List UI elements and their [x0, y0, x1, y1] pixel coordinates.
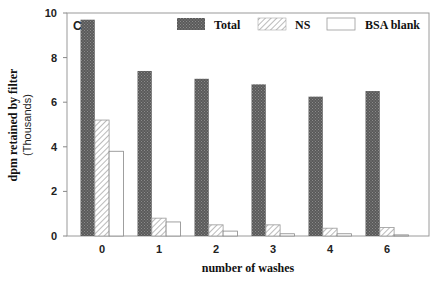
legend-swatch-bsa-blank: [327, 18, 355, 30]
x-tick-label: 4: [327, 243, 334, 255]
x-tick-label: 2: [213, 243, 219, 255]
x-tick-label: 0: [99, 243, 105, 255]
legend-label-ns: NS: [295, 18, 311, 32]
y-tick-label: 0: [51, 230, 57, 242]
y-tick-label: 6: [51, 96, 57, 108]
bar-total: [195, 79, 209, 236]
bars: [81, 20, 409, 236]
panel-label: C: [73, 19, 82, 33]
y-axis-title: dpm retained by filter: [6, 68, 20, 181]
bar-ns: [209, 225, 223, 236]
legend-swatch-total: [177, 18, 205, 30]
bar-total: [138, 71, 152, 236]
legend-label-total: Total: [214, 18, 241, 32]
x-axis-title: number of washes: [202, 261, 295, 275]
y-tick-label: 8: [51, 52, 57, 64]
legend: Total NS BSA blank: [177, 18, 420, 32]
bar-total: [81, 20, 95, 236]
bar-total: [252, 84, 266, 236]
x-tick-label: 6: [384, 243, 390, 255]
bar-bsa-blank: [394, 235, 408, 236]
x-axis: 012346: [99, 243, 390, 255]
bar-ns: [95, 120, 109, 236]
y-axis-subtitle: (Thousands): [21, 94, 33, 156]
x-tick-label: 1: [156, 243, 162, 255]
bar-ns: [152, 218, 166, 236]
x-tick-label: 3: [270, 243, 276, 255]
bar-bsa-blank: [223, 231, 237, 236]
bar-bsa-blank: [280, 234, 294, 236]
y-tick-label: 10: [45, 7, 57, 19]
bar-total: [309, 97, 323, 236]
y-axis: 0246810: [45, 7, 67, 242]
bar-ns: [266, 225, 280, 236]
bar-bsa-blank: [337, 234, 351, 236]
bar-bsa-blank: [109, 151, 123, 236]
bar-ns: [323, 228, 337, 236]
y-tick-label: 4: [51, 141, 58, 153]
legend-swatch-ns: [258, 18, 286, 30]
y-tick-label: 2: [51, 185, 57, 197]
bar-chart: 0246810 012346 C Total NS BSA blank numb…: [0, 0, 436, 281]
legend-label-bsa-blank: BSA blank: [365, 18, 420, 32]
bar-ns: [380, 228, 394, 236]
bar-bsa-blank: [166, 222, 180, 236]
bar-total: [366, 91, 380, 236]
